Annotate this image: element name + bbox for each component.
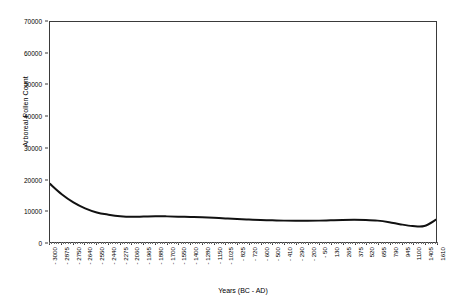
x-axis-minor-tick-mark <box>211 242 212 244</box>
x-axis-minor-tick-mark <box>270 242 271 244</box>
x-axis-minor-tick-mark <box>239 242 240 244</box>
x-axis-minor-tick-mark <box>272 242 273 244</box>
x-axis-minor-tick-mark <box>338 242 339 244</box>
y-axis-tick-label: 0 <box>38 240 42 247</box>
x-axis-minor-tick-mark <box>131 242 132 244</box>
x-axis-minor-tick-mark <box>244 242 245 244</box>
x-axis-minor-tick-mark <box>404 242 405 244</box>
x-axis-tick-label: - 1280 <box>204 247 211 265</box>
x-axis-tick-label: 945 <box>404 247 411 257</box>
x-axis-minor-tick-mark <box>192 242 193 244</box>
x-axis-minor-tick-mark <box>357 242 358 244</box>
x-axis-minor-tick-mark <box>65 242 66 244</box>
x-axis-tick-label: - 1965 <box>145 247 152 265</box>
x-axis-minor-tick-mark <box>378 242 379 244</box>
x-axis-minor-tick-mark <box>277 242 278 244</box>
x-axis-minor-tick-mark <box>145 242 146 244</box>
x-axis-minor-tick-mark <box>263 242 264 244</box>
x-axis-tick-label: - 1400 <box>192 247 199 265</box>
y-axis-tick-label: 60000 <box>24 49 42 56</box>
x-axis-minor-tick-mark <box>185 242 186 244</box>
y-axis-tick-label: 30000 <box>24 144 42 151</box>
x-axis-minor-tick-mark <box>341 242 342 244</box>
x-axis-minor-tick-mark <box>91 242 92 244</box>
x-axis-minor-tick-mark <box>96 242 97 244</box>
x-axis-minor-tick-mark <box>103 242 104 244</box>
y-axis-tick-mark <box>45 147 48 148</box>
x-axis-minor-tick-mark <box>413 242 414 244</box>
x-axis-minor-tick-mark <box>287 242 288 244</box>
x-axis-minor-tick-mark <box>150 242 151 244</box>
x-axis-minor-tick-mark <box>256 242 257 244</box>
x-axis-minor-tick-mark <box>435 242 436 244</box>
x-axis-tick-label: - 200 <box>310 247 317 261</box>
x-axis-tick-label: 265 <box>345 247 352 257</box>
x-axis-title: Years (BC - AD) <box>49 287 437 294</box>
x-axis-minor-tick-mark <box>366 242 367 244</box>
x-axis-minor-tick-mark <box>428 242 429 244</box>
x-axis-minor-tick-mark <box>216 242 217 244</box>
x-axis-minor-tick-mark <box>54 242 55 244</box>
x-axis-minor-tick-mark <box>167 242 168 244</box>
x-axis-minor-tick-mark <box>430 242 431 244</box>
x-axis-minor-tick-mark <box>178 242 179 244</box>
x-axis-minor-tick-mark <box>289 242 290 244</box>
x-axis-minor-tick-mark <box>402 242 403 244</box>
x-axis-minor-tick-mark <box>143 242 144 244</box>
x-axis-minor-tick-mark <box>390 242 391 244</box>
x-axis-minor-tick-mark <box>350 242 351 244</box>
x-axis-minor-tick-mark <box>331 242 332 244</box>
x-axis-minor-tick-mark <box>98 242 99 244</box>
x-axis-minor-tick-mark <box>392 242 393 244</box>
x-axis-tick-label: - 2750 <box>75 247 82 265</box>
x-axis-minor-tick-mark <box>68 242 69 244</box>
x-axis-minor-tick-mark <box>195 242 196 244</box>
x-axis-tick-label: 790 <box>392 247 399 257</box>
x-axis-tick-label: - 2875 <box>63 247 70 265</box>
x-axis-minor-tick-mark <box>319 242 320 244</box>
x-axis-minor-tick-mark <box>73 242 74 244</box>
x-axis-minor-tick-mark <box>437 242 438 244</box>
x-axis-minor-tick-mark <box>322 242 323 244</box>
x-axis-minor-tick-mark <box>279 242 280 244</box>
x-axis-minor-tick-mark <box>225 242 226 244</box>
x-axis-tick-label: - 1150 <box>216 247 223 264</box>
x-axis-tick-labels: - 3000- 2875- 2750- 2640- 2550- 2440- 22… <box>49 244 437 289</box>
x-axis-minor-tick-mark <box>343 242 344 244</box>
x-axis-minor-tick-mark <box>268 242 269 244</box>
y-axis-tick-label: 10000 <box>24 208 42 215</box>
x-axis-minor-tick-mark <box>265 242 266 244</box>
x-axis-minor-tick-mark <box>275 242 276 244</box>
x-axis-minor-tick-mark <box>164 242 165 244</box>
x-axis-minor-tick-mark <box>425 242 426 244</box>
x-axis-minor-tick-mark <box>199 242 200 244</box>
x-axis-minor-tick-mark <box>204 242 205 244</box>
x-axis-minor-tick-mark <box>416 242 417 244</box>
x-axis-minor-tick-mark <box>301 242 302 244</box>
x-axis-minor-tick-mark <box>230 242 231 244</box>
x-axis-minor-tick-mark <box>383 242 384 244</box>
x-axis-minor-tick-mark <box>108 242 109 244</box>
x-axis-tick-label: 1610 <box>439 247 446 261</box>
x-axis-minor-tick-mark <box>348 242 349 244</box>
data-line-series <box>50 22 436 242</box>
y-axis-tick-mark <box>45 84 48 85</box>
x-axis-minor-tick-mark <box>399 242 400 244</box>
x-axis-tick-label: - 2440 <box>110 247 117 265</box>
x-axis-minor-tick-mark <box>160 242 161 244</box>
x-axis-tick-label: - 2550 <box>98 247 105 265</box>
x-axis-minor-tick-mark <box>308 242 309 244</box>
x-axis-minor-tick-mark <box>141 242 142 244</box>
y-axis-tick-mark <box>45 211 48 212</box>
x-axis-tick-label: - 2640 <box>86 247 93 265</box>
x-axis-minor-tick-mark <box>232 242 233 244</box>
x-axis-minor-tick-mark <box>362 242 363 244</box>
x-axis-tick-label: 655 <box>380 247 387 257</box>
y-axis-tick-mark <box>45 243 48 244</box>
x-axis-minor-tick-mark <box>77 242 78 244</box>
x-axis-minor-tick-mark <box>345 242 346 244</box>
x-axis-minor-tick-mark <box>329 242 330 244</box>
x-axis-tick-label: - 1025 <box>227 247 234 265</box>
x-axis-minor-tick-mark <box>376 242 377 244</box>
x-axis-minor-tick-mark <box>129 242 130 244</box>
